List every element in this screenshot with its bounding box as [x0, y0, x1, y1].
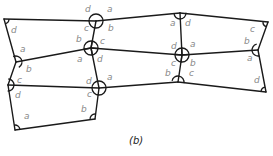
- figure-caption: (b): [129, 135, 143, 146]
- angle-label-d: d: [15, 90, 21, 100]
- angle-label-c: c: [84, 23, 89, 33]
- angle-label-b: b: [190, 58, 196, 68]
- edges-group: [4, 13, 268, 130]
- angle-label-b: b: [165, 68, 171, 78]
- edge-V6-V7: [91, 48, 182, 55]
- angle-label-a: a: [77, 54, 83, 64]
- angle-label-a: a: [20, 44, 26, 54]
- corner-angle-arc-icon: [261, 87, 265, 91]
- angle-label-c: c: [189, 68, 194, 78]
- angle-label-d: d: [97, 54, 103, 64]
- angle-markers-group: [5, 13, 266, 130]
- cross-spoke: [91, 41, 92, 48]
- angle-label-d: d: [254, 75, 260, 85]
- angle-label-d: d: [185, 18, 191, 28]
- angle-label-d: d: [171, 41, 177, 51]
- angle-label-a: a: [170, 18, 176, 28]
- angle-label-d: d: [86, 76, 92, 86]
- angle-label-b: b: [108, 23, 114, 33]
- angle-label-c: c: [17, 75, 22, 85]
- edge-V11-V12: [178, 82, 266, 92]
- angle-label-a: a: [190, 39, 196, 49]
- edge-V5-V9: [8, 62, 16, 85]
- cross-spoke: [84, 48, 91, 49]
- cross-spoke: [91, 48, 98, 49]
- corner-angle-arc-icon: [5, 19, 9, 24]
- angle-label-a: a: [107, 72, 113, 82]
- angle-label-b: b: [26, 64, 32, 74]
- angle-label-c: c: [250, 24, 255, 34]
- edge-V10-V11: [99, 82, 178, 88]
- quadrilateral-tiling-diagram: ddacbadcabbcaddacbbacdbcdacdba (b): [0, 0, 273, 156]
- angle-label-d: d: [11, 25, 17, 35]
- angle-label-a: a: [24, 111, 30, 121]
- angle-label-c: c: [87, 89, 92, 99]
- edge-V2-V3: [96, 13, 180, 21]
- cross-spoke: [91, 48, 92, 55]
- angle-label-d: d: [85, 4, 91, 14]
- angle-label-b: b: [244, 36, 250, 46]
- edge-V1-V2: [4, 19, 96, 21]
- angle-label-c: c: [100, 36, 105, 46]
- cross-spoke: [181, 55, 182, 62]
- angle-label-c: c: [171, 58, 176, 68]
- angle-labels-group: ddacbadcabbcaddacbbacdbcdacdba: [11, 4, 260, 121]
- angle-label-a: a: [247, 53, 253, 63]
- angle-label-b: b: [81, 104, 87, 114]
- edge-V9-V13: [8, 85, 15, 130]
- edge-V14-V10: [95, 88, 99, 119]
- edge-V3-V4: [180, 13, 268, 22]
- angle-label-a: a: [107, 4, 113, 14]
- cross-spoke: [175, 54, 182, 55]
- angle-label-b: b: [76, 34, 82, 44]
